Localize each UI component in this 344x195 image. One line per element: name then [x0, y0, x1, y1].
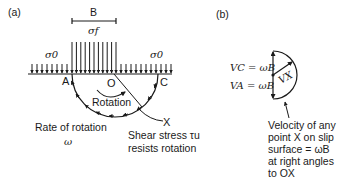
point-x-label: X	[163, 116, 171, 128]
point-c-label: C	[160, 76, 168, 88]
resists-rotation-label: resists rotation	[128, 142, 196, 154]
vc-label: VC = ωB	[230, 62, 275, 73]
footing-stress-label: σf	[88, 25, 101, 36]
note-line-3: surface = ωB	[268, 143, 330, 155]
width-dimension: B	[72, 6, 116, 21]
point-x-leader	[140, 110, 163, 121]
note-leader	[285, 102, 289, 118]
panel-a-tag: (a)	[8, 6, 21, 18]
rate-symbol: ω	[64, 136, 72, 147]
point-o-label: O	[107, 77, 116, 89]
va-label: VA = ωB	[230, 80, 274, 91]
panel-b: (b) VC = ωB VA = ωB VX Velocity of any p…	[216, 8, 336, 179]
note-line-1: Velocity of any	[268, 119, 336, 131]
note-line-4: at right angles	[268, 155, 334, 167]
rate-of-rotation-label: Rate of rotation	[35, 121, 107, 133]
surcharge-left-label: σ0	[45, 49, 59, 60]
point-a-label: A	[62, 75, 70, 87]
note-line-5: to OX	[268, 167, 295, 179]
rotation-label: Rotation	[92, 96, 131, 108]
width-label: B	[90, 6, 97, 18]
panel-a: (a) B σf σ0 σ0	[8, 6, 200, 154]
shear-stress-label: Shear stress τu	[128, 129, 200, 141]
surcharge-right-label: σ0	[150, 49, 164, 60]
surcharge-arrows-left	[32, 64, 67, 73]
surcharge-arrows-right	[121, 64, 171, 73]
diagram-canvas: (a) B σf σ0 σ0	[0, 0, 344, 195]
panel-b-tag: (b)	[216, 8, 229, 20]
footing-pressure-arrows	[72, 42, 116, 73]
note-line-2: point X on slip	[268, 131, 334, 143]
